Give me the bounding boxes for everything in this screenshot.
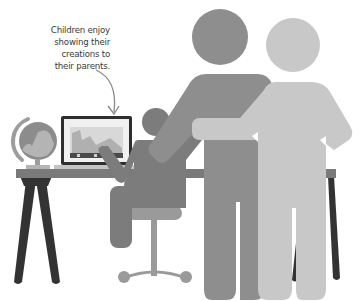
- caption-line-2: showing their: [20, 36, 110, 48]
- caption-line-3: creations to: [20, 48, 110, 60]
- globe-icon: [13, 119, 57, 169]
- arrow-icon: [96, 70, 115, 112]
- caption-line-1: Children enjoy: [20, 24, 110, 36]
- caption-text: Children enjoy showing their creations t…: [20, 24, 110, 72]
- caption-line-4: their parents.: [20, 60, 110, 72]
- family-computer-illustration: Children enjoy showing their creations t…: [0, 0, 361, 301]
